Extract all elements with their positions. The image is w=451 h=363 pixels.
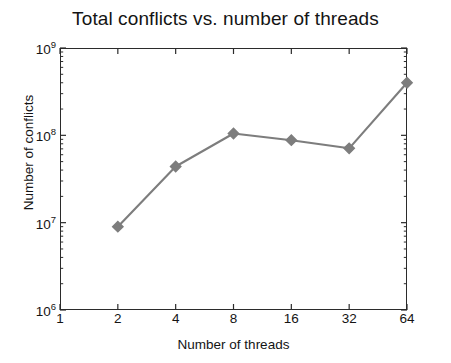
x-tick-label: 8 [214,311,254,326]
x-tick-label-group: 1248163264 [0,311,451,335]
data-point-marker [228,128,238,138]
data-point-marker [286,135,296,145]
x-tick-label: 64 [387,311,427,326]
y-minor-tick-marks [60,52,407,284]
data-line-total-conflicts [118,83,407,227]
y-axis-label: Number of conflicts [21,63,36,243]
x-tick-label: 16 [271,311,311,326]
x-tick-label: 4 [156,311,196,326]
chart-title: Total conflicts vs. number of threads [0,8,451,30]
x-major-tick-marks [60,48,407,310]
y-tick-label: 109 [4,39,56,57]
x-tick-label: 2 [98,311,138,326]
chart-page: Total conflicts vs. number of threads 10… [0,0,451,363]
x-axis-label: Number of threads [60,337,407,352]
x-tick-label: 1 [40,311,80,326]
data-point-markers [113,78,413,232]
plot-data-layer [60,48,407,310]
x-tick-label: 32 [329,311,369,326]
y-major-tick-marks [60,48,407,310]
